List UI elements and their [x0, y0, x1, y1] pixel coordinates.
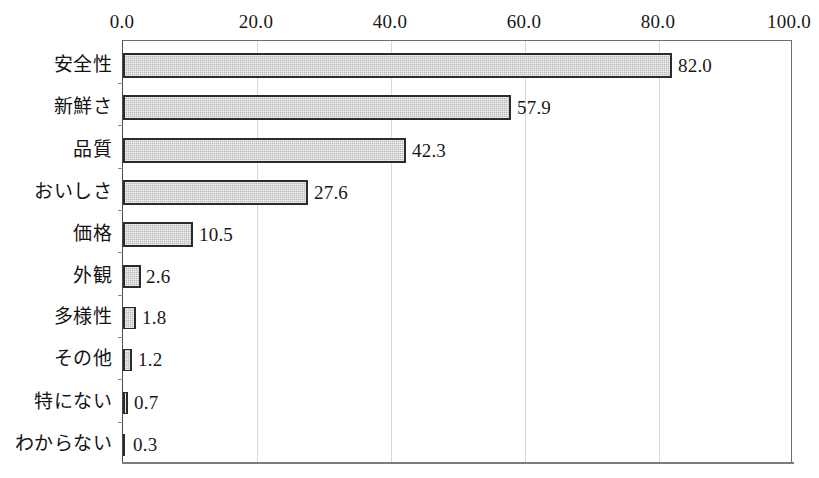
- bar-7: [123, 349, 132, 371]
- category-label-3: おいしさ: [34, 181, 112, 203]
- category-label-wrap: 安全性: [0, 52, 112, 77]
- x-tick-label: 60.0: [507, 10, 541, 34]
- y-axis-tick: [118, 168, 123, 169]
- category-label-4: 価格: [73, 223, 112, 245]
- bar-5: [123, 265, 141, 288]
- table-row: 42.3: [123, 138, 793, 163]
- bar-value-label: 1.2: [138, 350, 162, 370]
- bar-value-label: 0.3: [133, 435, 157, 455]
- bar-4: [123, 222, 193, 247]
- category-label-wrap: 多様性: [0, 306, 112, 328]
- y-axis-tick: [118, 125, 123, 126]
- category-label-wrap: 外観: [0, 264, 112, 287]
- bar-2: [123, 138, 406, 163]
- category-label-2: 品質: [73, 139, 112, 161]
- table-row: 10.5: [123, 222, 793, 247]
- category-label-wrap: その他: [0, 348, 112, 370]
- x-axis-tick-labels: 0.0 20.0 40.0 60.0 80.0 100.0: [0, 10, 819, 34]
- category-label-6: 多様性: [54, 306, 113, 328]
- bar-1: [123, 95, 511, 120]
- bar-8: [123, 392, 128, 414]
- y-axis-tick: [118, 295, 123, 296]
- bar-value-label: 27.6: [314, 183, 348, 203]
- category-label-wrap: わからない: [0, 433, 112, 455]
- x-tick-label: 80.0: [641, 10, 675, 34]
- bar-value-label: 1.8: [142, 308, 166, 328]
- bar-value-label: 10.5: [199, 225, 233, 245]
- x-tick-label: 100.0: [767, 10, 811, 34]
- bar-9: [123, 434, 125, 456]
- bar-value-label: 57.9: [517, 98, 551, 118]
- category-label-wrap: 新鮮さ: [0, 94, 112, 119]
- bar-value-label: 42.3: [412, 141, 446, 161]
- bar-value-label: 82.0: [678, 56, 712, 76]
- horizontal-bar-chart: 0.0 20.0 40.0 60.0 80.0 100.0 82.0 57.9: [0, 0, 819, 478]
- y-axis-tick: [118, 210, 123, 211]
- bar-3: [123, 180, 308, 205]
- bar-6: [123, 307, 136, 329]
- table-row: 57.9: [123, 95, 793, 120]
- category-label-wrap: 品質: [0, 137, 112, 162]
- category-label-wrap: 特にない: [0, 391, 112, 413]
- x-tick-label: 40.0: [373, 10, 407, 34]
- y-axis-tick: [118, 422, 123, 423]
- y-axis-tick: [118, 337, 123, 338]
- table-row: 1.2: [123, 349, 793, 371]
- table-row: 82.0: [123, 53, 793, 78]
- plot-area: 82.0 57.9 42.3 27.6 10.5 2.6: [122, 40, 792, 463]
- x-tick-label: 20.0: [239, 10, 273, 34]
- x-tick-label: 0.0: [110, 10, 135, 34]
- table-row: 27.6: [123, 180, 793, 205]
- table-row: 1.8: [123, 307, 793, 329]
- category-label-wrap: おいしさ: [0, 179, 112, 204]
- category-label-5: 外観: [73, 265, 112, 287]
- y-axis-tick: [118, 252, 123, 253]
- category-label-7: その他: [54, 348, 113, 370]
- bar-0: [123, 53, 672, 78]
- table-row: 2.6: [123, 265, 793, 288]
- category-label-wrap: 価格: [0, 221, 112, 246]
- table-row: 0.3: [123, 434, 793, 456]
- category-label-0: 安全性: [54, 54, 113, 76]
- category-label-9: わからない: [15, 433, 113, 455]
- bar-value-label: 2.6: [146, 267, 170, 287]
- category-label-8: 特にない: [34, 391, 112, 413]
- bar-value-label: 0.7: [134, 393, 158, 413]
- y-axis-tick: [118, 379, 123, 380]
- y-axis-tick: [118, 83, 123, 84]
- table-row: 0.7: [123, 392, 793, 414]
- category-label-1: 新鮮さ: [54, 96, 113, 118]
